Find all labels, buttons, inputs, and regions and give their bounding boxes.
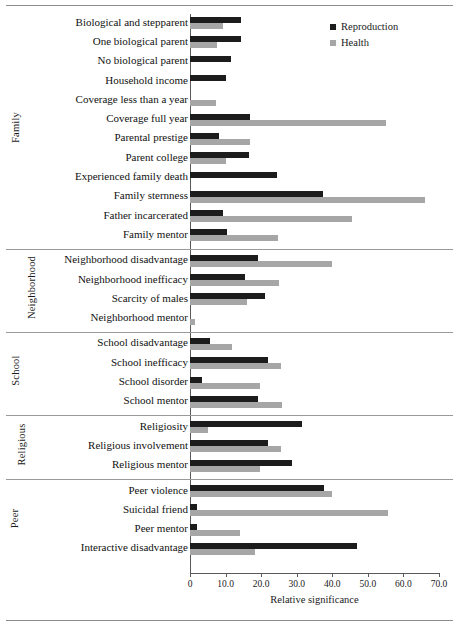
group-label-school: School xyxy=(0,365,30,376)
x-axis-tick xyxy=(297,573,298,577)
chart-legend: Reproduction Health xyxy=(330,19,398,51)
category-label: Biological and stepparent xyxy=(76,17,188,28)
bar-health xyxy=(190,261,332,267)
bar-health xyxy=(190,100,216,106)
bar-health xyxy=(190,23,223,29)
category-label: Parent college xyxy=(125,152,188,163)
legend-swatch-icon xyxy=(330,40,336,46)
bar-health xyxy=(190,466,260,472)
section-divider xyxy=(6,479,453,480)
category-label: School disorder xyxy=(119,376,188,387)
category-label: School mentor xyxy=(124,395,188,406)
legend-label: Reproduction xyxy=(341,19,398,35)
bar-health xyxy=(190,344,232,350)
bar-health xyxy=(190,402,282,408)
group-label-text: Family xyxy=(10,112,21,143)
bar-health xyxy=(190,427,208,433)
bar-health xyxy=(190,120,386,126)
figure-top-rule xyxy=(6,5,453,6)
bar-health xyxy=(190,363,281,369)
figure-bottom-rule xyxy=(6,620,453,621)
x-axis-tick-label: 0 xyxy=(188,579,193,589)
group-label-text: Religious xyxy=(16,423,27,465)
x-axis-tick xyxy=(261,573,262,577)
category-label: Scarcity of males xyxy=(112,293,188,304)
bar-health xyxy=(190,446,281,452)
x-axis-tick-label: 20.0 xyxy=(253,579,270,589)
category-label: Interactive disadvantage xyxy=(81,542,188,553)
legend-item-reproduction: Reproduction xyxy=(330,19,398,35)
bar-reproduction xyxy=(190,56,231,62)
bar-health xyxy=(190,158,226,164)
category-label: Neighborhood disadvantage xyxy=(64,254,188,265)
x-axis-tick xyxy=(226,573,227,577)
legend-swatch-icon xyxy=(330,24,336,30)
legend-item-health: Health xyxy=(330,35,398,51)
category-label: Coverage full year xyxy=(106,113,188,124)
x-axis-tick-label: 40.0 xyxy=(324,579,341,589)
x-axis-tick xyxy=(439,573,440,577)
legend-label: Health xyxy=(341,35,369,51)
bar-health xyxy=(190,299,247,305)
category-label: Experienced family death xyxy=(75,171,188,182)
group-label-text: Neighborhood xyxy=(26,256,37,319)
bar-health xyxy=(190,235,278,241)
bar-health xyxy=(190,383,260,389)
category-label: Coverage less than a year xyxy=(76,94,188,105)
group-label-text: Peer xyxy=(10,508,21,527)
bar-health xyxy=(190,280,279,286)
group-label-text: School xyxy=(10,356,21,386)
category-label: Religiosity xyxy=(140,421,188,432)
category-label: Family sternness xyxy=(114,190,188,201)
category-label: Religious mentor xyxy=(112,459,188,470)
figure-container: Biological and stepparentOne biological … xyxy=(0,0,459,627)
x-axis-tick-label: 50.0 xyxy=(360,579,377,589)
x-axis-tick-label: 70.0 xyxy=(431,579,448,589)
bar-reproduction xyxy=(190,172,277,178)
x-axis-tick xyxy=(190,573,191,577)
section-divider xyxy=(6,249,453,250)
category-label: Family mentor xyxy=(123,229,188,240)
category-label: Suicidal friend xyxy=(123,504,188,515)
bar-health xyxy=(190,510,388,516)
section-divider xyxy=(6,332,453,333)
x-axis-tick-label: 30.0 xyxy=(288,579,305,589)
category-label: Father incarcerated xyxy=(103,210,188,221)
x-axis-line xyxy=(190,573,439,574)
category-label: School inefficacy xyxy=(111,357,188,368)
group-label-neighborhood: Neighborhood xyxy=(0,282,30,293)
bar-health xyxy=(190,530,240,536)
section-divider xyxy=(6,415,453,416)
x-axis-tick-label: 60.0 xyxy=(395,579,412,589)
bar-health xyxy=(190,197,425,203)
category-label: Religious involvement xyxy=(88,440,188,451)
group-label-peer: Peer xyxy=(0,513,30,524)
bar-health xyxy=(190,139,250,145)
bar-health xyxy=(190,491,332,497)
category-label: No biological parent xyxy=(98,55,188,66)
category-label: Parental prestige xyxy=(114,132,188,143)
bar-health xyxy=(190,549,255,555)
bar-health xyxy=(190,216,352,222)
bar-health xyxy=(190,319,195,325)
x-axis-tick-label: 10.0 xyxy=(217,579,234,589)
x-axis-tick xyxy=(403,573,404,577)
category-label: School disadvantage xyxy=(97,337,188,348)
x-axis-tick xyxy=(332,573,333,577)
category-label: Neighborhood inefficacy xyxy=(78,274,188,285)
category-label: Household income xyxy=(105,75,188,86)
category-label: Neighborhood mentor xyxy=(91,312,188,323)
bar-health xyxy=(190,42,217,48)
category-label: Peer mentor xyxy=(135,523,188,534)
category-label: One biological parent xyxy=(93,36,188,47)
x-axis-title: Relative significance xyxy=(190,594,439,605)
category-label: Peer violence xyxy=(128,485,188,496)
bar-reproduction xyxy=(190,75,226,81)
group-label-religious: Religious xyxy=(0,439,30,450)
x-axis-tick xyxy=(368,573,369,577)
group-label-family: Family xyxy=(0,122,30,133)
